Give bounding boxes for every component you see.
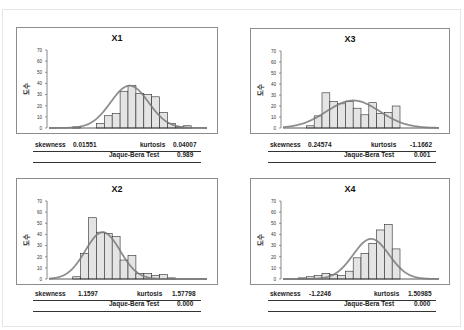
stats-table-x4: skewness -1.2246 kurtosis 1.50985 Jaque-… <box>268 289 436 309</box>
skewness-value: 0.24574 <box>308 141 332 148</box>
y-tick-label: 60 <box>271 60 277 65</box>
histogram-bar <box>120 260 128 279</box>
jb-value: 0.000 <box>177 300 193 307</box>
divider <box>268 162 436 163</box>
histogram-bar <box>89 218 97 279</box>
kurtosis-value: -1.1662 <box>410 141 432 148</box>
skewness-value: 0.01551 <box>73 141 97 148</box>
jb-label: Jaque-Bera Test <box>344 151 394 158</box>
histogram-bar <box>353 258 361 279</box>
y-tick-label: 0 <box>273 277 276 282</box>
histogram-bar <box>112 114 120 128</box>
y-tick-label: 0 <box>39 277 42 282</box>
y-tick-label: 50 <box>37 221 43 226</box>
y-tick-label: 40 <box>37 81 43 86</box>
y-tick-label: 40 <box>271 82 277 87</box>
histogram-bar <box>104 116 112 128</box>
y-tick-label: 20 <box>271 255 277 260</box>
y-tick-label: 40 <box>271 232 277 237</box>
histogram-bar <box>338 276 346 279</box>
y-axis-label: 도수 <box>23 83 31 95</box>
panel-x4: X4 도수010203040506070 skewness -1.2246 ku… <box>232 165 464 325</box>
jb-label: Jaque-Bera Test <box>109 300 159 307</box>
y-tick-label: 30 <box>37 92 43 97</box>
y-tick-label: 10 <box>37 266 43 271</box>
histogram-bar <box>377 230 385 279</box>
histogram-bar <box>369 243 377 279</box>
y-tick-label: 40 <box>37 232 43 237</box>
divider <box>268 311 436 312</box>
stats-table-x1: skewness 0.01551 kurtosis 0.04007 Jaque-… <box>33 140 201 160</box>
y-tick-label: 50 <box>37 70 43 75</box>
jb-value: 0.001 <box>414 151 430 158</box>
kurtosis-label: kurtosis <box>137 290 162 297</box>
jb-label: Jaque-Bera Test <box>109 151 159 158</box>
y-tick-label: 0 <box>39 126 42 131</box>
kurtosis-value: 1.57798 <box>172 290 196 297</box>
histogram-bar <box>377 114 385 128</box>
histogram-bar <box>345 271 353 279</box>
skewness-value: -1.2246 <box>309 290 331 297</box>
histogram-x2: X2 도수010203040506070 <box>16 178 218 285</box>
divider <box>33 162 201 163</box>
y-tick-label: 20 <box>37 104 43 109</box>
skewness-label: skewness <box>270 290 301 297</box>
y-tick-label: 10 <box>271 115 277 120</box>
histogram-bar <box>384 224 392 279</box>
y-tick-label: 20 <box>271 104 277 109</box>
histogram-plot: 도수010203040506070 <box>251 29 451 135</box>
divider <box>33 311 201 312</box>
y-tick-label: 30 <box>271 243 277 248</box>
histogram-bar <box>361 115 369 128</box>
kurtosis-label: kurtosis <box>140 141 165 148</box>
panel-x1: X1 도수010203040506070 skewness 0.01551 ku… <box>0 0 232 160</box>
histogram-bar <box>96 232 104 279</box>
jb-label: Jaque-Bera Test <box>344 300 394 307</box>
histogram-bar <box>338 104 346 128</box>
kurtosis-label: kurtosis <box>374 290 399 297</box>
y-tick-label: 20 <box>37 255 43 260</box>
kurtosis-value: 0.04007 <box>173 141 197 148</box>
histogram-plot: 도수010203040506070 <box>251 179 451 286</box>
y-tick-label: 10 <box>37 115 43 120</box>
y-tick-label: 30 <box>37 243 43 248</box>
skewness-value: 1.1597 <box>78 290 98 297</box>
panel-x2: X2 도수010203040506070 skewness 1.1597 kur… <box>0 165 232 325</box>
y-tick-label: 60 <box>37 59 43 64</box>
histogram-bar <box>144 95 152 128</box>
histogram-bar <box>353 108 361 128</box>
y-tick-label: 70 <box>271 199 277 204</box>
histogram-bar <box>120 91 128 128</box>
histogram-x1: X1 도수010203040506070 <box>16 27 218 134</box>
kurtosis-label: kurtosis <box>371 141 396 148</box>
y-tick-label: 0 <box>273 126 276 131</box>
histogram-bar <box>392 106 400 128</box>
skewness-label: skewness <box>35 141 66 148</box>
histogram-x3: X3 도수010203040506070 <box>250 28 450 134</box>
y-axis-label: 도수 <box>23 234 31 246</box>
y-tick-label: 60 <box>37 210 43 215</box>
jb-value: 0.000 <box>414 300 430 307</box>
kurtosis-value: 1.50985 <box>408 290 432 297</box>
y-axis-label: 도수 <box>257 84 265 96</box>
histogram-bar <box>361 253 369 279</box>
stats-table-x3: skewness 0.24574 kurtosis -1.1662 Jaque-… <box>268 140 436 160</box>
y-tick-label: 70 <box>271 49 277 54</box>
panel-x3: X3 도수010203040506070 skewness 0.24574 ku… <box>232 0 464 160</box>
stats-table-x2: skewness 1.1597 kurtosis 1.57798 Jaque-B… <box>33 289 201 309</box>
y-tick-label: 70 <box>37 48 43 53</box>
histogram-bar <box>128 86 136 128</box>
y-tick-label: 50 <box>271 221 277 226</box>
histogram-plot: 도수010203040506070 <box>17 28 219 135</box>
histogram-bar <box>104 233 112 279</box>
skewness-label: skewness <box>270 141 301 148</box>
histogram-plot: 도수010203040506070 <box>17 179 219 286</box>
skewness-label: skewness <box>35 290 66 297</box>
y-tick-label: 60 <box>271 210 277 215</box>
y-tick-label: 30 <box>271 93 277 98</box>
histogram-x4: X4 도수010203040506070 <box>250 178 450 285</box>
histogram-bar <box>136 93 144 128</box>
y-tick-label: 50 <box>271 71 277 76</box>
histogram-bar <box>96 124 104 128</box>
y-axis-label: 도수 <box>257 234 265 246</box>
